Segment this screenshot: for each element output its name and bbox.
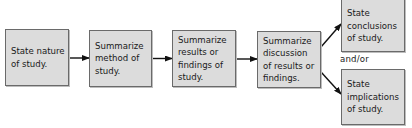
node-state-conclusions: State conclusions of study. [341, 0, 405, 52]
arrow-n4-n6 [321, 72, 341, 94]
node-label: State implications of study. [347, 78, 399, 116]
node-summarize-discussion: Summarize discussion of results or findi… [257, 31, 321, 88]
node-label: Summarize discussion of results or findi… [263, 35, 314, 85]
node-state-implications: State implications of study. [341, 69, 405, 125]
arrow-n4-n5 [321, 24, 341, 47]
node-summarize-method: Summarize method of study. [89, 30, 152, 87]
branch-label-and-or: and/or [340, 54, 369, 64]
node-label: Summarize method of study. [95, 40, 144, 78]
node-label: Summarize results or findings of study. [178, 34, 227, 84]
node-state-nature: State nature of study. [5, 29, 69, 86]
node-label: State conclusions of study. [347, 7, 397, 45]
node-label: State nature of study. [11, 45, 65, 70]
node-summarize-results: Summarize results or findings of study. [172, 30, 236, 87]
